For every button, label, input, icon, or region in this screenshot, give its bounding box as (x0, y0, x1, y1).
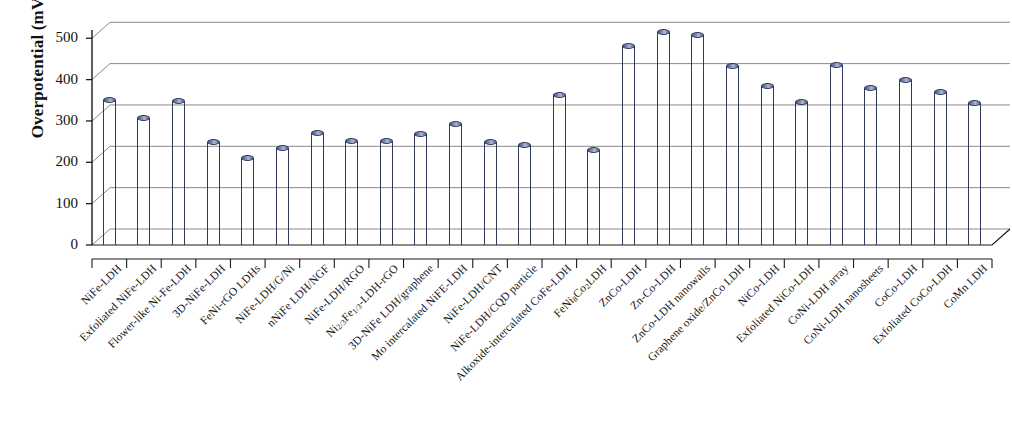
bar (345, 141, 358, 245)
bar (414, 134, 427, 245)
bar (691, 35, 704, 245)
x-tick-label: CoNi-LDH array (785, 262, 850, 327)
y-tick-label: 300 (38, 113, 78, 128)
bar (172, 101, 185, 245)
bar (587, 150, 600, 245)
bar-top-ellipse (553, 92, 566, 98)
bar (449, 124, 462, 245)
bar (207, 142, 220, 245)
bar-top-ellipse (380, 138, 393, 144)
gridline (92, 64, 1010, 80)
bar-top-ellipse (311, 130, 324, 136)
bar-top-ellipse (830, 62, 843, 68)
bar (103, 100, 116, 245)
bar (830, 65, 843, 245)
bar (899, 80, 912, 245)
gridline (92, 22, 1010, 38)
bar-top-ellipse (518, 142, 531, 148)
bar (311, 133, 324, 245)
x-tick-label: NiFe-LDH/RGO (302, 262, 366, 326)
bar (622, 46, 635, 245)
bar-top-ellipse (899, 77, 912, 83)
bar (241, 158, 254, 245)
bar (380, 141, 393, 245)
bar (795, 102, 808, 245)
bar (934, 92, 947, 245)
x-tick-label: nNiFe LDH/NGF (264, 262, 331, 329)
bar-top-ellipse (691, 32, 704, 38)
y-tick-label: 200 (38, 154, 78, 169)
bar-top-ellipse (276, 145, 289, 151)
bar-top-ellipse (622, 43, 635, 49)
bar (276, 148, 289, 245)
y-tick-label: 0 (38, 237, 78, 252)
y-tick-label: 100 (38, 196, 78, 211)
bar-top-ellipse (103, 97, 116, 103)
bar-top-ellipse (761, 83, 774, 89)
plot-area (92, 30, 992, 245)
x-axis-tick-labels: NiFe-LDHExfoliated NiFe-LDHFlower-like N… (0, 258, 1003, 440)
bar-top-ellipse (934, 89, 947, 95)
bar-top-ellipse (968, 100, 981, 106)
y-axis-tick-labels: 0100200300400500 (34, 30, 78, 245)
bar-top-ellipse (864, 85, 877, 91)
bar (864, 88, 877, 245)
bar-top-ellipse (795, 99, 808, 105)
bar-top-ellipse (587, 147, 600, 153)
bar (761, 86, 774, 245)
bar-top-ellipse (241, 155, 254, 161)
bar (137, 118, 150, 245)
x-tick-label: FeNi-rGO LDHs (198, 262, 263, 327)
bar-top-ellipse (414, 131, 427, 137)
bar (968, 103, 981, 245)
y-tick-label: 500 (38, 30, 78, 45)
bar-top-ellipse (172, 98, 185, 104)
bar-top-ellipse (207, 139, 220, 145)
bar-top-ellipse (449, 121, 462, 127)
bar (553, 95, 566, 245)
bar (484, 142, 497, 245)
bar-top-ellipse (657, 29, 670, 35)
bar (518, 145, 531, 245)
bar-top-ellipse (484, 139, 497, 145)
y-tick-label: 400 (38, 72, 78, 87)
bar-top-ellipse (137, 115, 150, 121)
bar-top-ellipse (726, 63, 739, 69)
bar (657, 32, 670, 245)
bar-top-ellipse (345, 138, 358, 144)
bar (726, 66, 739, 245)
